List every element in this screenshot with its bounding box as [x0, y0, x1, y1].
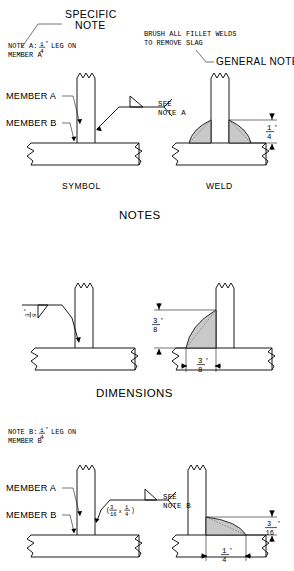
section-unequal-leg: NOTE B: 1 4 " LEG ON MEMBER B MEMBER A — [6, 427, 281, 564]
unequal-vdim-numerator: 3 — [267, 520, 271, 528]
unequal-size-first-denominator: 16 — [110, 511, 117, 518]
member-a-arrowhead — [77, 119, 82, 124]
welding-diagram-svg: SPECIFIC NOTE NOTE A: 1 4 " LEG ON MEMBE… — [0, 0, 294, 571]
unequal-symbol-left: MEMBER A MEMBER B SEE NOTE B ( 3 — [6, 465, 191, 557]
unequal-vdim-denominator: 16 — [266, 529, 274, 537]
unequal-size-close: ) — [131, 507, 135, 514]
dimensions-vdim-inch: " — [161, 318, 164, 323]
weld-leg-dimension-notes: 1 4 " — [266, 124, 278, 141]
dimensions-symbol-size-denominator: 8 — [31, 313, 38, 317]
dimensions-vertical-dim: 3 8 " — [152, 317, 164, 334]
dimensions-symbol-arrowhead — [76, 337, 81, 343]
unequal-member-b-arrowhead — [71, 528, 76, 533]
note-a-text-block: NOTE A: 1 4 " LEG ON MEMBER A — [8, 41, 76, 59]
note-b-inch-mark: " — [46, 427, 49, 432]
dimensions-horizontal-dim: 3 8 " — [197, 357, 209, 374]
dimensions-vdim-denominator: 8 — [153, 326, 157, 334]
specific-note-label-line2: NOTE — [75, 19, 106, 31]
unequal-horizontal-dim: 1 4 " — [221, 547, 233, 564]
unequal-member-b-label: MEMBER B — [6, 510, 57, 520]
note-b-prefix: NOTE B: — [8, 428, 37, 436]
dimensions-symbol-size: 3 8 " — [24, 309, 38, 318]
unequal-hdim-inch: " — [230, 548, 233, 553]
unequal-tail-line1: SEE — [163, 493, 177, 501]
dimensions-weld-right: 3 8 " 3 8 " — [152, 283, 275, 374]
unequal-vdim-inch: " — [278, 521, 281, 526]
notes-dim-numerator: 1 — [267, 124, 272, 132]
unequal-weld-right: 3 16 " 1 4 " — [172, 465, 281, 564]
unequal-member-a-arrowhead — [77, 511, 82, 516]
weld-joint-right: 1 4 " — [172, 73, 278, 165]
general-note-label: GENERAL NOTE — [216, 56, 294, 67]
unequal-member-a-label: MEMBER A — [6, 483, 57, 493]
dimensions-hdim-denominator: 8 — [198, 366, 202, 374]
note-a-member: MEMBER A — [8, 51, 42, 59]
dimensions-hdim-numerator: 3 — [198, 357, 202, 365]
notes-dim-inch-mark: " — [275, 125, 278, 130]
symbol-tail-line2: NOTE A — [158, 109, 186, 117]
note-b-text-block: NOTE B: 1 4 " LEG ON MEMBER B — [8, 427, 76, 445]
unequal-tail-line2: NOTE B — [163, 502, 191, 510]
note-b-member: MEMBER B — [8, 437, 42, 445]
symbol-joint-left: MEMBER A MEMBER B SEE NOTE A — [6, 73, 186, 165]
general-note-line1: BRUSH ALL FILLET WELDS — [144, 30, 236, 38]
note-a-suffix: LEG ON — [51, 42, 76, 50]
heading-notes: NOTES — [119, 209, 161, 221]
symbol-tail-line1: SEE — [158, 100, 172, 108]
notes-dim-denominator: 4 — [267, 133, 272, 141]
general-note-line2: TO REMOVE SLAG — [144, 39, 203, 47]
unequal-hdim-denominator: 4 — [222, 556, 227, 564]
caption-weld: WELD — [206, 181, 233, 191]
unequal-vertical-dim: 3 16 " — [265, 520, 281, 537]
dimensions-hdim-inch: " — [206, 358, 209, 363]
note-a-prefix: NOTE A: — [8, 42, 37, 50]
unequal-hdim-numerator: 1 — [222, 547, 227, 555]
general-note-callout: BRUSH ALL FILLET WELDS TO REMOVE SLAG GE… — [144, 30, 294, 67]
section-notes: SPECIFIC NOTE NOTE A: 1 4 " LEG ON MEMBE… — [6, 8, 294, 221]
unequal-size-times: x — [119, 508, 123, 515]
member-b-label: MEMBER B — [6, 118, 57, 128]
member-a-label: MEMBER A — [6, 91, 57, 101]
unequal-size-annotation: ( 3 16 x 1 4 ) — [106, 504, 135, 518]
note-b-suffix: LEG ON — [51, 428, 76, 436]
dimensions-symbol-left: 3 8 " — [22, 283, 138, 370]
dimensions-symbol-size-inch: " — [24, 309, 29, 312]
caption-symbol: SYMBOL — [62, 181, 101, 191]
dimensions-vdim-numerator: 3 — [153, 317, 157, 325]
note-a-inch-mark: " — [46, 41, 49, 46]
drawing-sheet: SPECIFIC NOTE NOTE A: 1 4 " LEG ON MEMBE… — [0, 0, 294, 571]
unequal-size-second-denominator: 4 — [125, 511, 129, 518]
heading-dimensions: DIMENSIONS — [96, 387, 173, 399]
section-dimensions: 3 8 " — [22, 283, 275, 399]
member-b-arrowhead — [71, 136, 76, 141]
